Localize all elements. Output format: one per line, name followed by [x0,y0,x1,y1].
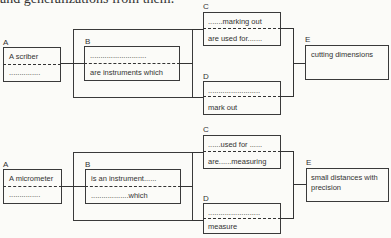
box-b-top-text: ........................... [90,51,146,60]
connector-a-b [61,63,84,64]
connector-to-e [293,63,305,64]
label-d: D [203,73,209,81]
box-c-top-text: ......used for ...... [208,140,262,149]
connector-b-c [192,29,203,30]
connector-c-e [281,28,293,29]
connector-b-c [192,152,203,153]
connector-a-b [62,186,85,187]
box-a-top-text: A micrometer [9,174,53,183]
box-b-top-text: is an instrument...... [91,174,156,183]
dashed-divider-b [84,63,180,64]
connector-b-d [192,220,203,221]
box-e-line2: precision [311,183,341,192]
label-c: C [203,3,209,11]
label-e: E [305,36,310,44]
box-d-bottom-text: mark out [208,103,237,112]
box-d-top-text: ......................... [208,86,260,95]
label-c: C [203,126,209,134]
box-a-bottom-text: ............... [9,68,40,77]
label-b: B [85,161,90,169]
box-d: ......................... mark out [203,81,281,115]
label-b: B [85,38,90,46]
dashed-divider-b [85,186,181,187]
label-e: E [306,159,311,167]
box-e-line1: cutting dimensions [311,50,373,59]
connector-c-e [281,151,293,152]
box-e-line1: small distances with [311,173,378,182]
label-a: A [3,161,8,169]
dashed-divider-d [203,96,281,97]
box-d-bottom-text: measure [208,222,237,231]
connector-vertical-e [293,151,294,219]
box-c-bottom-text: are used for....... [208,34,262,43]
box-a-bottom-text: ............... [9,190,40,199]
box-d-top-text: ......................... [208,208,260,217]
box-b-bottom-text: ..................which [91,191,148,200]
header-text: and generalizations from them. [0,0,174,7]
label-d: D [203,195,209,203]
box-b-bottom-text: are instruments which [90,68,163,77]
dashed-divider-c [203,151,281,152]
box-e: cutting dimensions [305,45,389,80]
dashed-divider-d [203,218,281,219]
connector-b-d [192,97,203,98]
box-c: .......marking out are used for....... [203,12,281,46]
dashed-divider-a [3,64,61,65]
dashed-divider-c [203,28,281,29]
dashed-divider-a [3,186,62,187]
box-c-top-text: .......marking out [208,17,262,26]
connector-d-e [281,96,293,97]
box-e: small distances with precision [306,168,389,202]
connector-b-outer [180,63,193,64]
box-c: ......used for ...... are......measuring [203,135,281,169]
connector-to-e [293,184,306,185]
label-a: A [3,39,8,47]
connector-d-e [281,218,293,219]
connector-b-outer [181,186,193,187]
box-c-bottom-text: are......measuring [208,157,266,166]
box-a-top-text: A scriber [9,52,38,61]
